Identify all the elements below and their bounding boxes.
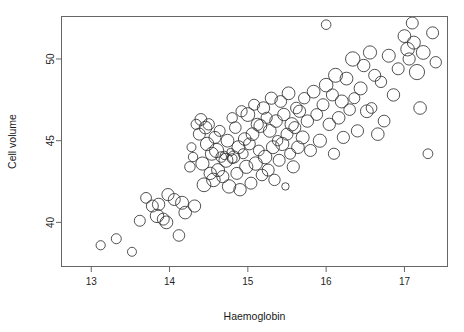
y-axis-tick-label: 50	[45, 53, 56, 65]
bubble-chart: 1314151617 404550 Haemoglobin Cell volum…	[0, 0, 464, 332]
y-axis-tick-label: 40	[45, 216, 56, 228]
x-axis-tick-label: 16	[321, 276, 333, 287]
x-axis-tick-label: 17	[399, 276, 411, 287]
x-axis-tick-label: 13	[86, 276, 98, 287]
chart-canvas: 1314151617 404550 Haemoglobin Cell volum…	[0, 0, 464, 332]
y-axis-title: Cell volume	[6, 114, 18, 169]
x-axis-tick-label: 14	[164, 276, 176, 287]
chart-background	[0, 0, 464, 332]
y-axis-tick-label: 45	[45, 135, 56, 147]
x-axis-title: Haemoglobin	[224, 310, 286, 322]
x-axis-tick-label: 15	[242, 276, 254, 287]
